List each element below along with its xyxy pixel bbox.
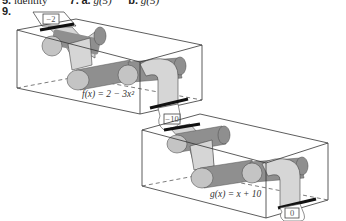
input-value: −2	[46, 14, 55, 24]
output-value: 0	[290, 208, 294, 218]
machine-g: g(x) = x + 10	[142, 114, 328, 218]
machine-f: −2 f(x) = 2 − 3x²	[17, 12, 202, 114]
intermediate-value: −10	[165, 114, 178, 124]
rule-label-f: f(x) = 2 − 3x²	[82, 89, 134, 100]
rule-label-g: g(x) = x + 10	[210, 189, 262, 200]
function-machines-diagram: −2 f(x) = 2 − 3x² −10 g(	[0, 0, 346, 221]
